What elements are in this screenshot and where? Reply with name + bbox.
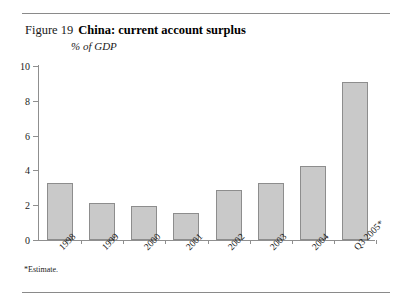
- x-tick-mark: [376, 240, 377, 244]
- figure-footnote: *Estimate.: [24, 265, 58, 274]
- page-title: China: current account surplus: [78, 23, 246, 37]
- bar-series: [39, 66, 375, 240]
- y-tick-mark: [33, 66, 38, 67]
- bottom-divider-rule: [22, 292, 390, 293]
- x-tick-mark: [334, 240, 335, 244]
- x-tick-mark: [292, 240, 293, 244]
- x-tick-mark: [81, 240, 82, 244]
- y-tick-mark: [33, 136, 38, 137]
- y-axis-tick-label: 6: [25, 130, 30, 141]
- bar: [300, 166, 326, 240]
- x-tick-mark: [250, 240, 251, 244]
- bar: [342, 82, 368, 240]
- y-tick-mark: [33, 205, 38, 206]
- y-axis-tick-label: 2: [25, 200, 30, 211]
- y-tick-mark: [33, 170, 38, 171]
- y-tick-mark: [33, 240, 38, 241]
- figure-subtitle: % of GDP: [71, 40, 390, 53]
- y-axis-tick-label: 10: [20, 61, 30, 72]
- title-row: Figure 19China: current account surplus: [25, 20, 390, 39]
- x-tick-mark: [165, 240, 166, 244]
- x-tick-mark: [208, 240, 209, 244]
- figure-number: Figure 19: [25, 23, 73, 37]
- figure-title-block: Figure 19China: current account surplus …: [25, 20, 390, 53]
- y-axis-tick-label: 0: [25, 235, 30, 246]
- plot-area: 0246810 1998199920002001200220032004Q3 2…: [38, 66, 375, 240]
- y-axis-tick-label: 4: [25, 165, 30, 176]
- top-divider-rule: [22, 13, 390, 14]
- x-tick-mark: [123, 240, 124, 244]
- y-tick-mark: [33, 101, 38, 102]
- figure-container: Figure 19China: current account surplus …: [0, 0, 398, 302]
- y-axis-tick-label: 8: [25, 95, 30, 106]
